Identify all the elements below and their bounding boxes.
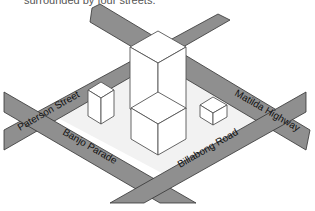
- building-small-left: [88, 82, 114, 124]
- isometric-city-block-diagram: Paterson Street Banjo Parade Billabong R…: [0, 0, 315, 211]
